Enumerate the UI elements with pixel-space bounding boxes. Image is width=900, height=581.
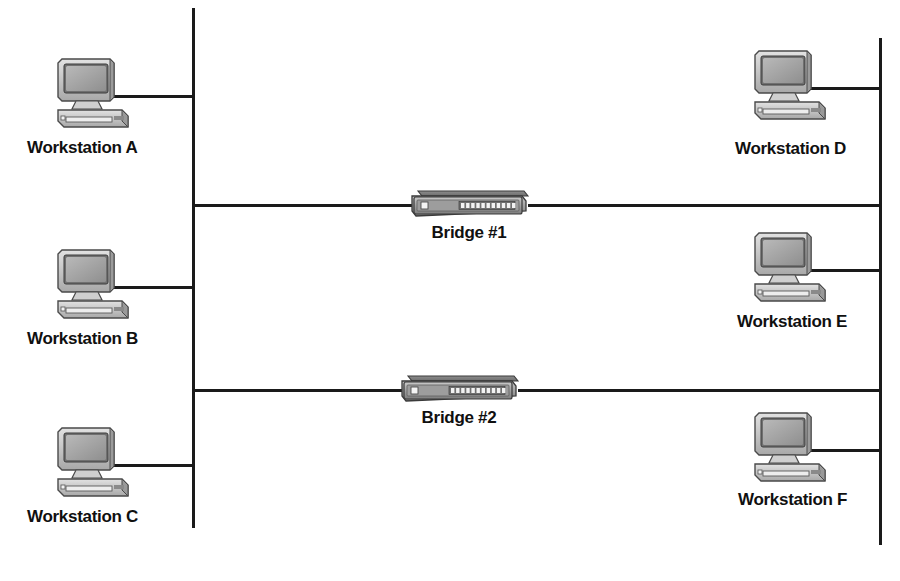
workstation-d-icon[interactable] [745,47,831,125]
workstation-d-label: Workstation D [735,140,846,157]
link-bridge2-right [518,389,882,392]
link-bridge2-left [192,389,402,392]
link-bridge1-right [528,204,882,207]
workstation-b-icon[interactable] [48,246,134,324]
workstation-e-icon[interactable] [745,229,831,307]
workstation-c-icon[interactable] [48,424,134,502]
workstation-b-label: Workstation B [27,330,138,347]
right-backbone-bus [879,38,882,545]
workstation-f-icon[interactable] [745,409,831,487]
bridge-2-icon[interactable] [398,374,520,404]
link-bridge1-left [192,204,414,207]
workstation-e-label: Workstation E [737,313,847,330]
left-backbone-bus [192,8,195,528]
bridge-1-icon[interactable] [408,189,530,219]
bridge-2-label: Bridge #2 [409,409,509,426]
bridge-1-label: Bridge #1 [419,224,519,241]
workstation-a-icon[interactable] [48,55,134,133]
network-diagram-canvas: Workstation A Workstation B [0,0,900,581]
workstation-a-label: Workstation A [27,139,137,156]
workstation-c-label: Workstation C [27,508,138,525]
workstation-f-label: Workstation F [738,491,847,508]
